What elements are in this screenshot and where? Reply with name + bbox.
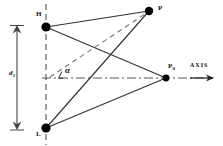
- figure-geometry-diagram: H L P P0 d1 α AXIS: [0, 0, 223, 146]
- label-dimension-d1-subscript: 1: [13, 73, 16, 78]
- label-node-p: P: [158, 5, 163, 12]
- edge-h-to-p0: [46, 27, 166, 78]
- label-angle-alpha: α: [65, 66, 70, 75]
- edge-l-to-p0: [46, 78, 166, 128]
- label-node-p0: P0: [168, 63, 175, 70]
- node-p0-dot[interactable]: [163, 75, 170, 82]
- node-p-dot[interactable]: [145, 7, 153, 15]
- edge-h-to-p: [46, 11, 149, 27]
- label-axis: AXIS: [190, 62, 208, 68]
- label-node-p0-base: P: [168, 62, 173, 70]
- angle-arc-marker: [59, 72, 64, 79]
- label-node-h: H: [36, 11, 42, 18]
- node-l-dot[interactable]: [41, 123, 50, 132]
- label-node-l: L: [36, 131, 41, 138]
- label-dimension-d1: d1: [9, 70, 16, 77]
- node-h-dot[interactable]: [41, 22, 50, 31]
- label-node-p0-subscript: 0: [173, 66, 176, 71]
- diagram-canvas: [0, 0, 223, 146]
